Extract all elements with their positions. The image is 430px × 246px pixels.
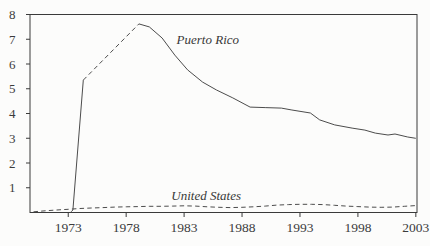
line-chart-figure: 123456781973197819831988199319982003Puer…: [0, 0, 430, 246]
y-tick-label: 3: [9, 131, 16, 146]
x-tick-label: 2003: [402, 220, 429, 235]
y-tick-label: 6: [9, 57, 16, 72]
y-tick-label: 1: [9, 180, 16, 195]
x-tick-label: 1998: [344, 220, 371, 235]
y-tick-label: 4: [9, 106, 16, 121]
x-tick-label: 1983: [171, 220, 198, 235]
series-line-puerto-rico: [71, 80, 83, 212]
series-line-puerto-rico-dashed: [83, 24, 139, 80]
x-tick-label: 1973: [55, 220, 82, 235]
y-tick-label: 5: [9, 81, 16, 96]
line-chart-svg: 123456781973197819831988199319982003Puer…: [0, 0, 430, 246]
y-tick-label: 2: [9, 156, 16, 171]
series-label-united-states: United States: [171, 188, 241, 203]
y-tick-label: 7: [9, 32, 16, 47]
y-tick-label: 8: [9, 7, 16, 22]
series-line-united-states-dashed: [34, 204, 416, 212]
series-label-puerto-rico: Puerto Rico: [176, 32, 240, 47]
x-tick-label: 1993: [286, 220, 313, 235]
x-tick-label: 1978: [113, 220, 140, 235]
x-tick-label: 1988: [229, 220, 256, 235]
